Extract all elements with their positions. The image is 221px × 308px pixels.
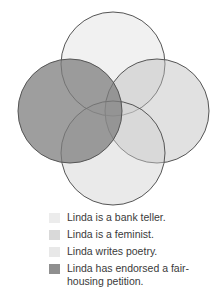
legend-item-bank-teller: Linda is a bank teller. bbox=[49, 211, 219, 224]
circle-left bbox=[18, 59, 122, 163]
legend-item-poetry: Linda writes poetry. bbox=[49, 245, 219, 258]
legend-swatch-petition bbox=[49, 264, 60, 274]
venn-diagram bbox=[0, 0, 221, 210]
legend-swatch-feminist bbox=[49, 230, 60, 240]
legend-item-petition: Linda has endorsed a fair-housing petiti… bbox=[49, 262, 219, 288]
legend-label: Linda writes poetry. bbox=[67, 245, 157, 258]
legend-label: Linda is a feminist. bbox=[67, 228, 154, 241]
legend-swatch-poetry bbox=[49, 247, 60, 257]
legend-label: Linda has endorsed a fair-housing petiti… bbox=[67, 262, 219, 288]
legend-item-feminist: Linda is a feminist. bbox=[49, 228, 219, 241]
legend-swatch-bank-teller bbox=[49, 213, 60, 223]
legend: Linda is a bank teller. Linda is a femin… bbox=[49, 211, 219, 292]
legend-label: Linda is a bank teller. bbox=[67, 211, 166, 224]
